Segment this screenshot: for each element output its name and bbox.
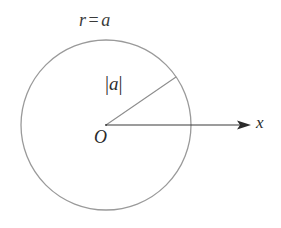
radius-magnitude-label: |a| xyxy=(105,73,123,93)
equation-equals-sign: = xyxy=(87,10,102,30)
equation-variable-r: r xyxy=(79,10,87,30)
origin-label: O xyxy=(94,128,107,146)
x-axis-label: x xyxy=(256,114,264,131)
origin-point xyxy=(105,124,107,126)
figure-canvas: r=a |a| O x xyxy=(0,0,281,228)
circle-equation-label: r=a xyxy=(79,11,111,29)
abs-value-a: a xyxy=(109,73,119,94)
diagram-svg xyxy=(0,0,281,228)
abs-bar-right: | xyxy=(119,72,123,94)
equation-value-a: a xyxy=(101,10,111,30)
